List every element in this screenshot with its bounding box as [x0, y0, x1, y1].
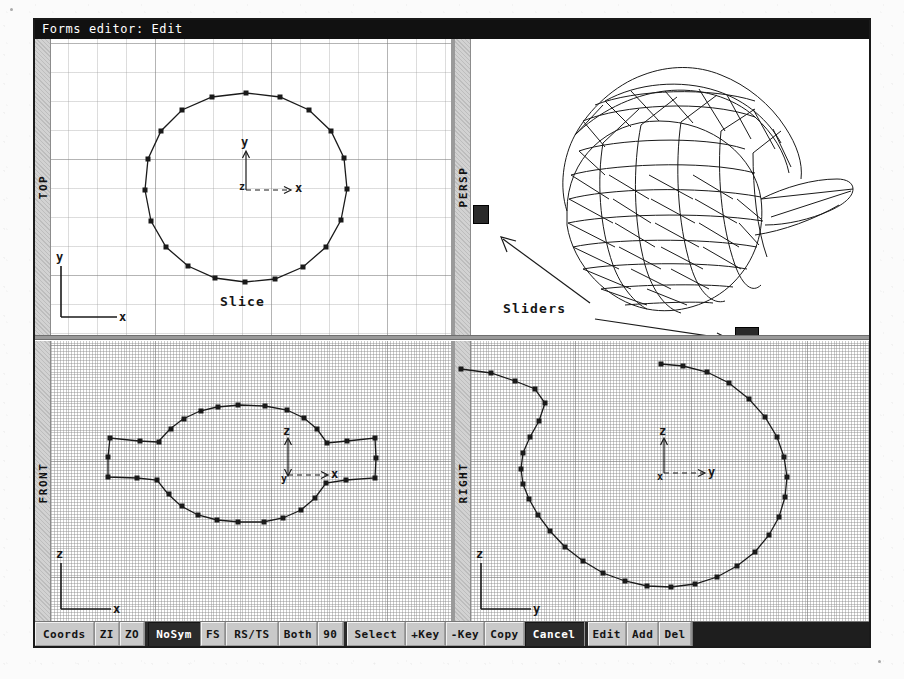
forms-editor-window: Forms editor: Edit TOP — [33, 18, 871, 648]
viewport-front-axis-origin: y — [281, 473, 288, 484]
window-title: Forms editor: Edit — [42, 22, 183, 36]
toolbar-button-nosym[interactable]: NoSym — [148, 622, 201, 646]
toolbar-button-select[interactable]: Select — [347, 622, 407, 646]
viewport-right-axis-origin: x — [657, 471, 664, 482]
toolbar-button--key[interactable]: -Key — [446, 622, 486, 646]
toolbar-button-zo[interactable]: ZO — [120, 622, 145, 646]
viewport-persp[interactable]: PERSP — [455, 39, 869, 335]
viewport-top[interactable]: TOP — [35, 39, 451, 335]
viewport-area: TOP — [35, 39, 869, 625]
viewport-top-gnomon — [61, 266, 117, 317]
toolbar-button-fs[interactable]: FS — [201, 622, 226, 646]
persp-horizontal-slider-handle[interactable] — [735, 327, 759, 335]
viewport-right-gnomon-up-label: z — [476, 547, 484, 561]
toolbar-button-90[interactable]: 90 — [318, 622, 343, 646]
viewport-top-annotation: Slice — [220, 294, 265, 309]
viewport-top-gnomon-right-label: x — [119, 310, 127, 324]
viewport-front-gnomon-up-label: z — [56, 547, 64, 561]
screenshot-page: Forms editor: Edit TOP — [0, 0, 904, 679]
viewport-front[interactable]: FRONT — [35, 341, 451, 625]
viewport-front-axis-right: x — [331, 467, 339, 481]
toolbar-button-copy[interactable]: Copy — [485, 622, 525, 646]
viewport-separator-vertical-top — [451, 39, 455, 335]
viewport-right-axis-up: z — [659, 424, 667, 438]
viewport-top-axis-right: x — [295, 181, 303, 195]
viewport-right-gnomon — [481, 563, 531, 609]
toolbar-button-cancel[interactable]: Cancel — [525, 622, 585, 646]
viewport-front-control-points — [106, 403, 379, 525]
window-titlebar: Forms editor: Edit — [35, 20, 869, 39]
viewport-persp-wireframe — [455, 39, 869, 335]
persp-vertical-slider-handle[interactable] — [473, 205, 489, 224]
toolbar-button-add[interactable]: Add — [627, 622, 659, 646]
toolbar-status-block — [692, 622, 869, 646]
viewport-separator-horizontal — [35, 335, 869, 340]
viewport-persp-annotation: Sliders — [503, 301, 566, 316]
viewport-right[interactable]: RIGHT — [455, 341, 869, 625]
viewport-front-geometry — [35, 341, 451, 625]
sliders-arrows — [501, 237, 731, 335]
viewport-front-gnomon — [61, 563, 111, 609]
viewport-right-control-points — [459, 362, 790, 590]
viewport-right-geometry — [455, 341, 869, 625]
viewport-front-axis-up: z — [283, 424, 291, 438]
toolbar-button-rs-ts[interactable]: RS/TS — [226, 622, 279, 646]
toolbar-button-del[interactable]: Del — [659, 622, 691, 646]
paper-speck — [10, 8, 13, 11]
viewport-top-axis-origin: z — [239, 181, 246, 192]
toolbar-button-coords[interactable]: Coords — [35, 622, 95, 646]
toolbar-button-edit[interactable]: Edit — [588, 622, 628, 646]
viewport-front-gnomon-right-label: x — [113, 602, 121, 616]
paper-speck — [878, 660, 881, 663]
toolbar-button--key[interactable]: +Key — [406, 622, 446, 646]
viewport-separator-vertical-bottom — [451, 341, 455, 625]
viewport-top-gnomon-up-label: y — [56, 250, 64, 264]
bottom-toolbar: CoordsZIZONoSymFSRS/TSBoth90Select+Key-K… — [35, 621, 869, 646]
toolbar-button-both[interactable]: Both — [279, 622, 319, 646]
viewport-right-axis-right: y — [708, 465, 716, 479]
viewport-top-axis-up: y — [241, 135, 249, 149]
toolbar-button-zi[interactable]: ZI — [95, 622, 120, 646]
viewport-right-gnomon-right-label: y — [533, 602, 541, 616]
